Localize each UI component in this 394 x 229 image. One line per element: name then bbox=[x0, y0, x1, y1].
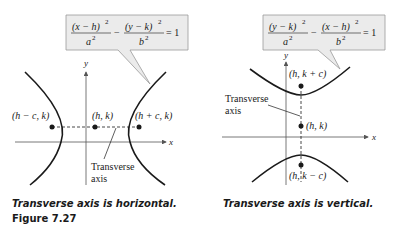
center-point bbox=[299, 124, 304, 129]
center-label: (h, k) bbox=[306, 120, 328, 132]
right-hyperbola-diagram: y x (h, k + c) (h, k) (h, k − c) Transve… bbox=[222, 15, 385, 209]
left-caption: Transverse axis is horizontal. bbox=[12, 198, 177, 209]
eq-term2-den: b bbox=[139, 36, 144, 47]
eq-term1-num: (y − k) bbox=[269, 21, 297, 33]
svg-text:2: 2 bbox=[302, 18, 306, 26]
left-focus-label: (h − c, k) bbox=[12, 110, 50, 122]
center-label: (h, k) bbox=[92, 110, 114, 122]
svg-text:2: 2 bbox=[92, 34, 96, 42]
transverse-leader-line bbox=[268, 105, 300, 116]
svg-text:−: − bbox=[114, 27, 120, 38]
left-equation-callout: (x − h) 2 a 2 − (y − k) 2 b 2 = 1 bbox=[66, 15, 188, 84]
transverse-label-line1: Transverse bbox=[225, 93, 269, 104]
transverse-leader-line bbox=[104, 128, 116, 159]
x-axis-label: x bbox=[168, 137, 173, 147]
y-axis-label: y bbox=[83, 58, 88, 68]
left-focus-point bbox=[50, 125, 55, 130]
center-point bbox=[93, 125, 98, 130]
svg-text:2: 2 bbox=[355, 18, 359, 26]
svg-text:−: − bbox=[311, 27, 317, 38]
svg-text:= 1: = 1 bbox=[166, 27, 179, 38]
svg-text:= 1: = 1 bbox=[363, 27, 376, 38]
transverse-label-line2: axis bbox=[225, 105, 241, 116]
right-focus-label: (h + c, k) bbox=[135, 110, 173, 122]
svg-text:2: 2 bbox=[105, 18, 109, 26]
eq-term2-num: (x − h) bbox=[322, 21, 351, 33]
svg-text:2: 2 bbox=[289, 34, 293, 42]
eq-term1-num: (x − h) bbox=[72, 21, 101, 33]
hyperbola-figure: y x (h − c, k) (h, k) (h + c, k) Transve… bbox=[0, 0, 394, 229]
upper-focus-point bbox=[299, 84, 304, 89]
eq-term1-den: a bbox=[283, 36, 288, 47]
svg-text:2: 2 bbox=[145, 34, 149, 42]
eq-term2-num: (y − k) bbox=[125, 21, 153, 33]
right-caption: Transverse axis is vertical. bbox=[223, 198, 373, 209]
lower-focus-point bbox=[299, 163, 304, 168]
eq-term2-den: b bbox=[336, 36, 341, 47]
eq-term1-den: a bbox=[86, 36, 91, 47]
svg-text:2: 2 bbox=[342, 34, 346, 42]
transverse-label-line1: Transverse bbox=[91, 161, 135, 172]
x-axis-label: x bbox=[371, 132, 376, 142]
svg-text:2: 2 bbox=[158, 18, 162, 26]
figure-number: Figure 7.27 bbox=[12, 213, 76, 224]
y-axis-label: y bbox=[283, 50, 288, 60]
upper-focus-label: (h, k + c) bbox=[289, 68, 327, 80]
left-hyperbola-diagram: y x (h − c, k) (h, k) (h + c, k) Transve… bbox=[12, 15, 188, 224]
diagram-canvas: y x (h − c, k) (h, k) (h + c, k) Transve… bbox=[0, 0, 394, 229]
right-equation-callout: (y − k) 2 a 2 − (x − h) 2 b 2 = 1 bbox=[263, 15, 385, 69]
transverse-label-line2: axis bbox=[91, 173, 107, 184]
lower-focus-label: (h, k − c) bbox=[289, 170, 327, 182]
left-branch-curve bbox=[25, 72, 63, 185]
right-focus-point bbox=[137, 125, 142, 130]
